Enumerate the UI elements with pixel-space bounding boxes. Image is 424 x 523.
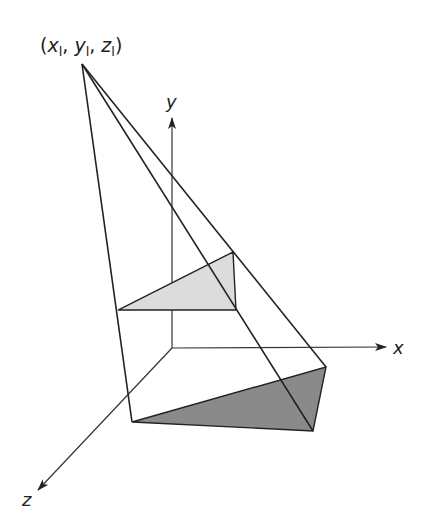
- x-axis: [172, 347, 386, 348]
- shadow-triangle: [132, 367, 326, 431]
- shadow-projection-diagram: (xl, yl, zl) y x z: [0, 0, 424, 523]
- y-axis-label: y: [165, 91, 177, 112]
- light-source-label: (xl, yl, zl): [40, 34, 122, 59]
- z-axis-label: z: [21, 489, 32, 510]
- projection-ray-middle: [82, 64, 313, 431]
- x-axis-label: x: [392, 337, 404, 358]
